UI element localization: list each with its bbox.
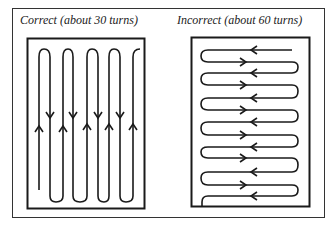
incorrect-path bbox=[201, 50, 298, 207]
left-inner-rect bbox=[28, 39, 145, 209]
correct-path bbox=[39, 49, 140, 202]
incorrect-arrows bbox=[240, 46, 257, 200]
serpentine-diagrams bbox=[0, 0, 334, 226]
